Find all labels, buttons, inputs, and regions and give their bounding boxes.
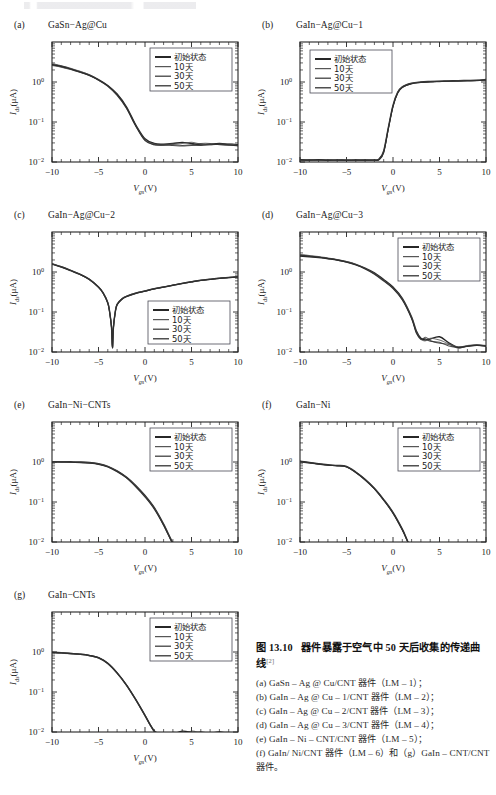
svg-text:30天: 30天 bbox=[174, 71, 194, 81]
panel-a-letter: (a) bbox=[14, 20, 25, 30]
svg-text:0: 0 bbox=[143, 357, 148, 367]
svg-text:10−2: 10−2 bbox=[28, 156, 44, 168]
svg-text:−10: −10 bbox=[293, 357, 308, 367]
svg-text:100: 100 bbox=[32, 266, 44, 278]
svg-text:−5: −5 bbox=[94, 737, 104, 747]
svg-text:Ids(μA): Ids(μA) bbox=[8, 89, 20, 116]
svg-text:−10: −10 bbox=[45, 357, 60, 367]
svg-text:0: 0 bbox=[391, 357, 396, 367]
svg-text:初始状态: 初始状态 bbox=[174, 52, 207, 62]
svg-text:10: 10 bbox=[234, 737, 244, 747]
svg-text:Ids(μA): Ids(μA) bbox=[256, 279, 268, 306]
svg-text:初始状态: 初始状态 bbox=[334, 54, 367, 64]
caption-item: (e) GaIn – Ni – CNT/CNT 器件（LM – 5）； bbox=[256, 733, 490, 747]
svg-text:初始状态: 初始状态 bbox=[422, 242, 455, 252]
svg-text:50天: 50天 bbox=[174, 81, 194, 91]
svg-text:−10: −10 bbox=[293, 547, 308, 557]
panel-a-plot: 10010−110−2−10−50510Vgs(V)Ids(μA)初始状态10天… bbox=[0, 32, 248, 204]
panel-b-letter: (b) bbox=[262, 20, 273, 30]
panel-e-plot: 10010−110−2−10−50510Vgs(V)Ids(μA)初始状态10天… bbox=[0, 412, 248, 584]
svg-text:10−1: 10−1 bbox=[28, 686, 44, 698]
svg-text:5: 5 bbox=[189, 737, 194, 747]
svg-text:Ids(μA): Ids(μA) bbox=[8, 469, 20, 496]
svg-text:10−2: 10−2 bbox=[276, 536, 292, 548]
svg-text:Ids(μA): Ids(μA) bbox=[8, 279, 20, 306]
svg-text:Ids(μA): Ids(μA) bbox=[256, 89, 268, 116]
svg-text:0: 0 bbox=[391, 167, 396, 177]
svg-text:10−2: 10−2 bbox=[28, 726, 44, 738]
svg-text:50天: 50天 bbox=[172, 334, 192, 344]
panel-g-title: GaIn−CNTs bbox=[48, 590, 95, 600]
panel-e-title: GaIn−Ni−CNTs bbox=[48, 400, 110, 410]
svg-text:30天: 30天 bbox=[422, 451, 442, 461]
caption-item: (d) GaIn – Ag @ Cu – 3/CNT 器件（LM – 4）； bbox=[256, 719, 490, 733]
svg-text:50天: 50天 bbox=[334, 83, 354, 93]
svg-text:−5: −5 bbox=[342, 167, 352, 177]
svg-text:10−1: 10−1 bbox=[276, 116, 292, 128]
svg-text:0: 0 bbox=[143, 547, 148, 557]
caption-items: (a) GaSn – Ag @ Cu/CNT 器件（LM – 1）； (b) G… bbox=[256, 677, 490, 775]
svg-text:5: 5 bbox=[189, 357, 194, 367]
svg-text:10−1: 10−1 bbox=[28, 496, 44, 508]
svg-text:10−1: 10−1 bbox=[28, 306, 44, 318]
svg-text:100: 100 bbox=[280, 76, 292, 88]
svg-text:10−1: 10−1 bbox=[276, 496, 292, 508]
figure-caption: 图 13.10 器件暴露于空气中 50 天后收集的传递曲线[2] (a) GaS… bbox=[256, 641, 490, 775]
svg-text:Vgs(V): Vgs(V) bbox=[381, 563, 405, 575]
svg-text:10−2: 10−2 bbox=[276, 156, 292, 168]
svg-text:10: 10 bbox=[234, 547, 244, 557]
caption-item: (c) GaIn – Ag @ Cu – 2/CNT 器件（LM – 3）； bbox=[256, 705, 490, 719]
panel-c-plot: 10010−110−2−10−50510Vgs(V)Ids(μA)初始状态10天… bbox=[0, 222, 248, 394]
panel-g-letter: (g) bbox=[14, 590, 25, 600]
svg-text:10−2: 10−2 bbox=[276, 346, 292, 358]
svg-text:10−1: 10−1 bbox=[276, 306, 292, 318]
svg-text:0: 0 bbox=[143, 167, 148, 177]
svg-text:50天: 50天 bbox=[422, 461, 442, 471]
svg-text:100: 100 bbox=[280, 266, 292, 278]
panel-a-title: GaSn−Ag@Cu bbox=[48, 20, 107, 30]
panel-b: (b) GaIn−Ag@Cu−1 10010−110−2−10−50510Vgs… bbox=[248, 14, 496, 204]
figure-page: (a) GaSn−Ag@Cu 10010−110−2−10−50510Vgs(V… bbox=[0, 0, 496, 795]
svg-text:5: 5 bbox=[437, 167, 442, 177]
svg-text:10−2: 10−2 bbox=[28, 536, 44, 548]
svg-text:10天: 10天 bbox=[174, 632, 194, 642]
svg-text:Vgs(V): Vgs(V) bbox=[381, 183, 405, 195]
svg-text:10天: 10天 bbox=[174, 442, 194, 452]
svg-text:10天: 10天 bbox=[422, 442, 442, 452]
panel-d-plot: 10010−110−2−10−50510Vgs(V)Ids(μA)初始状态10天… bbox=[248, 222, 496, 394]
svg-text:100: 100 bbox=[280, 456, 292, 468]
svg-text:10−2: 10−2 bbox=[28, 346, 44, 358]
panel-b-title: GaIn−Ag@Cu−1 bbox=[296, 20, 363, 30]
svg-text:30天: 30天 bbox=[334, 73, 354, 83]
svg-text:0: 0 bbox=[391, 547, 396, 557]
svg-text:Ids(μA): Ids(μA) bbox=[8, 659, 20, 686]
svg-text:30天: 30天 bbox=[422, 261, 442, 271]
svg-text:50天: 50天 bbox=[422, 271, 442, 281]
panel-f-letter: (f) bbox=[262, 400, 272, 410]
panel-a: (a) GaSn−Ag@Cu 10010−110−2−10−50510Vgs(V… bbox=[0, 14, 248, 204]
svg-text:30天: 30天 bbox=[174, 641, 194, 651]
svg-text:10天: 10天 bbox=[334, 64, 354, 74]
panel-g-plot: 10010−110−2−10−50510Vgs(V)Ids(μA)初始状态10天… bbox=[0, 602, 248, 774]
svg-text:Ids(μA): Ids(μA) bbox=[256, 469, 268, 496]
panel-g: (g) GaIn−CNTs 10010−110−2−10−50510Vgs(V)… bbox=[0, 584, 248, 774]
svg-text:初始状态: 初始状态 bbox=[174, 622, 207, 632]
svg-text:−5: −5 bbox=[94, 547, 104, 557]
svg-text:5: 5 bbox=[437, 547, 442, 557]
svg-text:30天: 30天 bbox=[174, 451, 194, 461]
svg-text:−5: −5 bbox=[94, 357, 104, 367]
svg-text:−10: −10 bbox=[293, 167, 308, 177]
svg-text:10: 10 bbox=[234, 357, 244, 367]
svg-text:−5: −5 bbox=[342, 547, 352, 557]
svg-text:Vgs(V): Vgs(V) bbox=[133, 753, 157, 765]
svg-text:Vgs(V): Vgs(V) bbox=[381, 373, 405, 385]
panel-f-plot: 10010−110−2−10−50510Vgs(V)Ids(μA)初始状态10天… bbox=[248, 412, 496, 584]
svg-text:0: 0 bbox=[143, 737, 148, 747]
svg-text:100: 100 bbox=[32, 646, 44, 658]
caption-reference: [2] bbox=[266, 657, 274, 664]
svg-text:100: 100 bbox=[32, 456, 44, 468]
svg-text:10: 10 bbox=[482, 167, 492, 177]
caption-item: (f) GaIn/ Ni/CNT 器件（LM – 6）和（g）GaIn – CN… bbox=[256, 747, 490, 775]
svg-text:10: 10 bbox=[234, 167, 244, 177]
panel-f: (f) GaIn−Ni 10010−110−2−10−50510Vgs(V)Id… bbox=[248, 394, 496, 584]
